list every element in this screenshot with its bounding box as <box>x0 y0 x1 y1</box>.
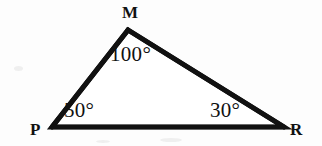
vertex-label-m: M <box>122 4 138 21</box>
angle-label-m: 100° <box>110 44 151 65</box>
triangle-diagram-canvas: M P R 100° 50° 30° <box>0 0 322 146</box>
vertex-label-r: R <box>290 121 302 138</box>
angle-label-r: 30° <box>210 100 240 121</box>
vertex-label-p: P <box>30 121 41 138</box>
triangle-figure <box>0 0 322 146</box>
angle-label-p: 50° <box>64 100 94 121</box>
